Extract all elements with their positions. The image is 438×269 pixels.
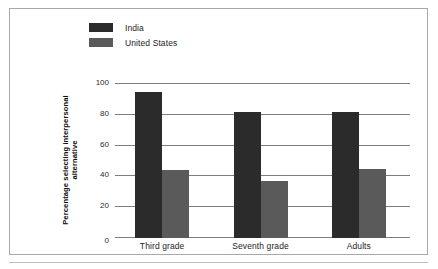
bar-india-third-grade: [135, 92, 162, 238]
y-tick-label-20: 20: [79, 201, 109, 211]
legend-swatch-india: [89, 23, 113, 32]
x-tick-label-seventh-grade: Seventh grade: [232, 241, 289, 251]
bars-group: [115, 84, 410, 238]
legend-item-india: India: [89, 20, 177, 35]
legend-label-india: India: [125, 23, 144, 33]
figure-frame: India United States Percentage selecting…: [9, 8, 428, 255]
x-tick-label-adults: Adults: [347, 241, 371, 251]
legend-swatch-united-states: [89, 38, 113, 47]
x-axis-labels: Third gradeSeventh gradeAdults: [115, 241, 410, 255]
footer-divider: [9, 262, 428, 263]
bar-united-states-adults: [359, 169, 386, 238]
bar-india-seventh-grade: [234, 112, 261, 238]
plot-area: 020406080100: [115, 84, 410, 238]
bar-india-adults: [332, 112, 359, 238]
y-tick-label-80: 80: [79, 109, 109, 119]
chart-legend: India United States: [89, 20, 177, 50]
legend-label-united-states: United States: [125, 38, 177, 48]
legend-item-united-states: United States: [89, 35, 177, 50]
y-tick-label-40: 40: [79, 170, 109, 180]
bar-united-states-seventh-grade: [261, 181, 288, 238]
y-tick-label-100: 100: [79, 78, 109, 88]
x-tick-label-third-grade: Third grade: [140, 241, 185, 251]
bar-united-states-third-grade: [162, 170, 189, 238]
y-axis-title: Percentage selecting interpersonal alter…: [62, 81, 78, 239]
y-tick-label-0: 0: [79, 236, 109, 246]
y-tick-label-60: 60: [79, 140, 109, 150]
